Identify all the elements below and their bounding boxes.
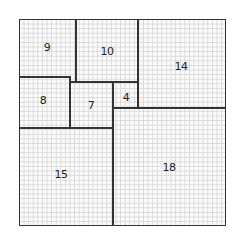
divider-10-14	[137, 19, 139, 109]
divider-9-8	[19, 76, 70, 78]
divider-7-4	[112, 81, 114, 226]
square-label-8: 8	[40, 94, 47, 107]
square-label-7: 7	[88, 99, 95, 112]
square-label-15: 15	[55, 168, 68, 181]
square-label-10: 10	[101, 45, 114, 58]
square-label-14: 14	[175, 60, 188, 73]
divider-15-top	[19, 127, 114, 129]
square-label-18: 18	[163, 161, 176, 174]
divider-8-7	[69, 76, 71, 128]
divider-10-bottom	[69, 81, 139, 83]
divider-14-18	[112, 107, 226, 109]
square-label-9: 9	[44, 41, 51, 54]
square-label-4: 4	[123, 91, 130, 104]
divider-9-10	[75, 19, 77, 82]
